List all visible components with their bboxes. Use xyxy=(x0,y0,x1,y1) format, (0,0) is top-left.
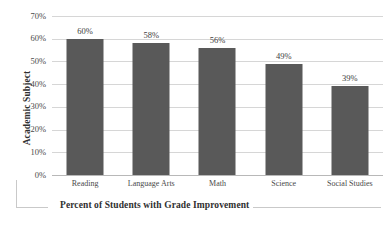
x-axis-line xyxy=(52,175,383,176)
y-axis-tick-label: 40% xyxy=(4,79,46,89)
x-axis-title: Percent of Students with Grade Improveme… xyxy=(56,200,253,210)
x-axis-category-label: Math xyxy=(184,179,250,188)
y-axis-tick-label: 30% xyxy=(4,101,46,111)
bar-slot: 60% xyxy=(52,16,118,175)
bar[interactable] xyxy=(199,48,236,175)
bar-slot: 56% xyxy=(184,16,250,175)
bar[interactable] xyxy=(331,86,368,175)
bar-slot: 49% xyxy=(251,16,317,175)
y-axis-tick-label: 70% xyxy=(4,11,46,21)
x-axis-category-label: Science xyxy=(251,179,317,188)
bar-slot: 39% xyxy=(317,16,383,175)
bar-chart: Academic Subject 70%60%50%40%30%20%10%0%… xyxy=(0,0,392,227)
bar-value-label: 49% xyxy=(276,51,292,61)
bar-value-label: 39% xyxy=(342,73,358,83)
y-axis-tick-label: 0% xyxy=(4,170,46,180)
bar-value-label: 60% xyxy=(77,26,93,36)
bar-value-label: 58% xyxy=(143,30,159,40)
y-axis-tick-label: 20% xyxy=(4,124,46,134)
chart-frame-bottom-right-border xyxy=(245,207,381,208)
x-axis-category-label: Social Studies xyxy=(317,179,383,188)
bar-series: 60%58%56%49%39% xyxy=(52,16,383,175)
bar[interactable] xyxy=(67,39,104,175)
bar[interactable] xyxy=(133,43,170,175)
y-axis-tick-label: 60% xyxy=(4,33,46,43)
y-axis-tick-label: 10% xyxy=(4,147,46,157)
chart-frame-bottom-left-border xyxy=(17,207,48,208)
y-axis-tick-label: 50% xyxy=(4,56,46,66)
chart-frame-left-border xyxy=(16,180,17,208)
bar[interactable] xyxy=(265,64,302,175)
plot-area: 60%58%56%49%39% xyxy=(52,16,383,175)
bar-slot: 58% xyxy=(118,16,184,175)
x-axis-category-label: Reading xyxy=(52,179,118,188)
bar-value-label: 56% xyxy=(210,35,226,45)
x-axis-category-label: Language Arts xyxy=(118,179,184,188)
